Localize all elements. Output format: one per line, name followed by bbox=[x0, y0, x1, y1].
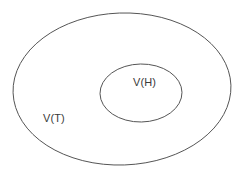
nested-set-diagram bbox=[0, 0, 241, 174]
outer-set-label: V(T) bbox=[43, 112, 65, 124]
inner-set-ellipse-vh bbox=[100, 63, 183, 122]
inner-set-label: V(H) bbox=[133, 76, 156, 88]
outer-set-ellipse-vt bbox=[10, 9, 233, 169]
diagram-canvas: V(T) V(H) bbox=[0, 0, 241, 174]
